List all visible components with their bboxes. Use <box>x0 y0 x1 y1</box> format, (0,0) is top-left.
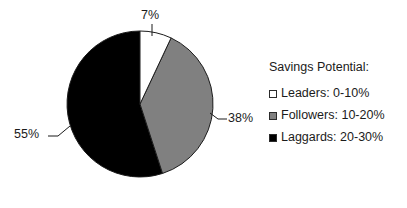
pie-value-label-followers: 38% <box>228 111 253 125</box>
pie-chart-figure: 7% 38% 55% Savings Potential: Leaders: 0… <box>0 0 407 208</box>
legend-title: Savings Potential: <box>269 60 405 74</box>
legend-item-label: Leaders: 0-10% <box>281 87 369 100</box>
legend-item-followers[interactable]: Followers: 10-20% <box>269 107 405 124</box>
legend-swatch-leaders-icon <box>269 90 277 98</box>
legend-item-label: Laggards: 20-30% <box>281 131 383 144</box>
pie-value-label-laggards: 55% <box>14 127 39 141</box>
legend-item-laggards[interactable]: Laggards: 20-30% <box>269 129 405 146</box>
legend-swatch-laggards-icon <box>269 134 277 142</box>
legend-item-leaders[interactable]: Leaders: 0-10% <box>269 85 405 102</box>
legend-swatch-followers-icon <box>269 112 277 120</box>
pie-value-label-leaders: 7% <box>141 8 159 22</box>
chart-legend: Savings Potential: Leaders: 0-10% Follow… <box>269 60 405 151</box>
leader-line-55-percent <box>48 126 70 136</box>
legend-item-label: Followers: 10-20% <box>281 109 385 122</box>
